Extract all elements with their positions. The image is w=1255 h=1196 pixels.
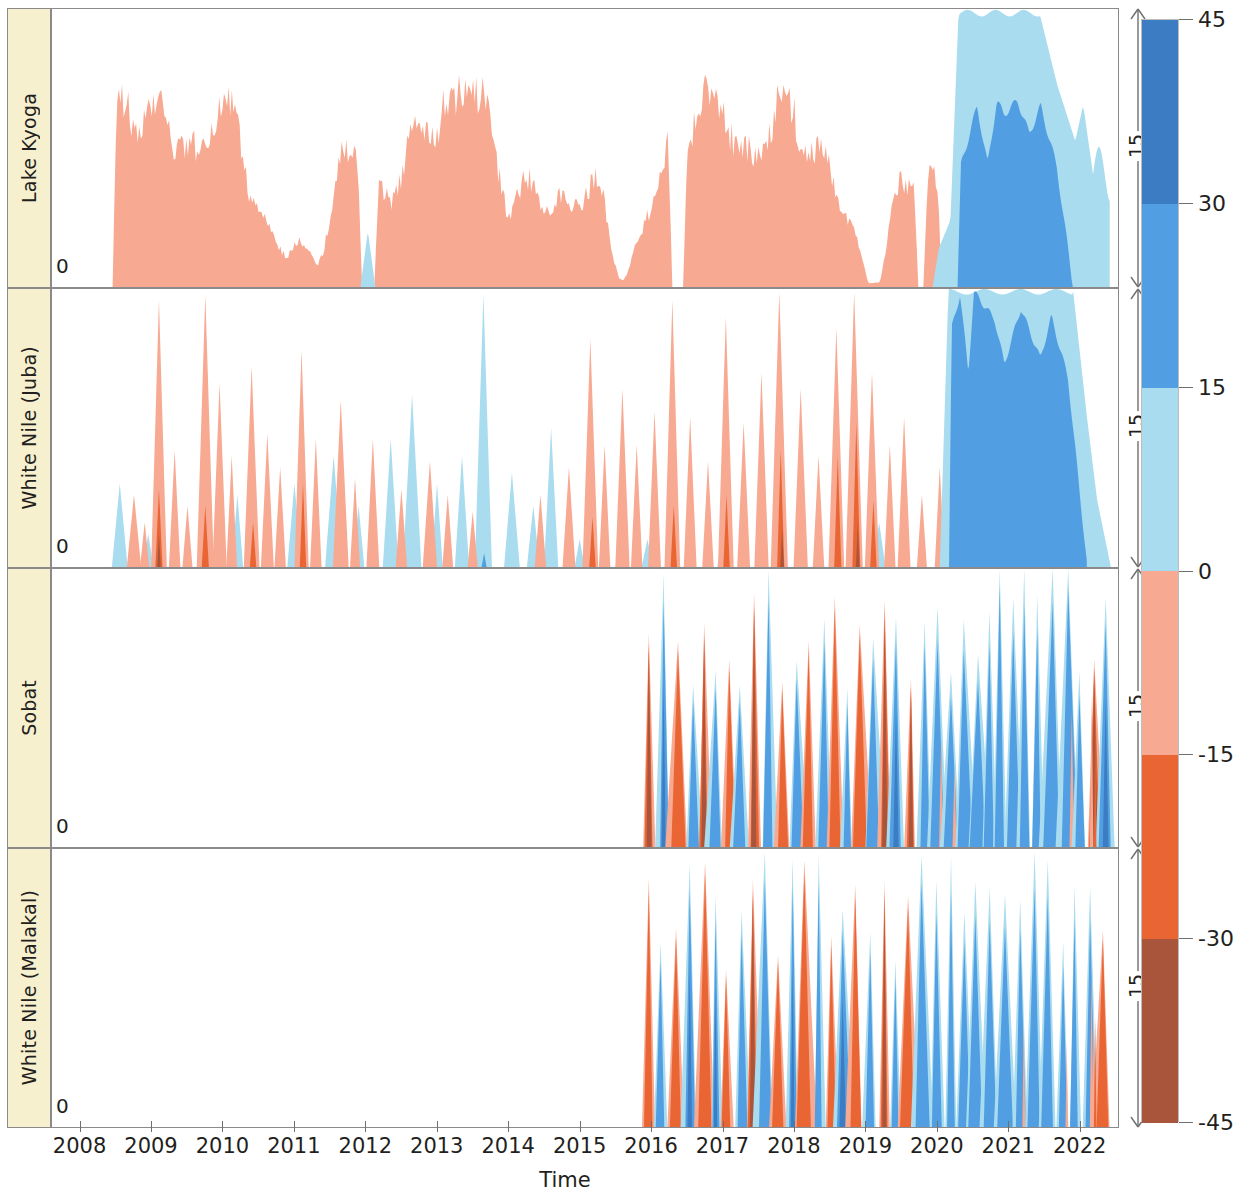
panel-series-white-nile-juba: [52, 289, 1118, 567]
panel-zero-label-white-nile-malakal: 0: [56, 1094, 69, 1118]
x-tick-label: 2013: [410, 1134, 463, 1158]
area-band: [310, 439, 321, 567]
area-band: [403, 395, 422, 567]
x-tick-label: 2017: [696, 1134, 749, 1158]
x-tick-label: 2012: [339, 1134, 392, 1158]
x-tick: [222, 1121, 223, 1132]
x-tick-label: 2020: [910, 1134, 963, 1158]
colorbar: [1141, 19, 1179, 1122]
colorbar-tick: [1179, 938, 1193, 939]
colorbar-tick-label: -30: [1198, 926, 1234, 951]
panel-series-sobat: [52, 569, 1118, 847]
panel-plot-white-nile-malakal: [51, 848, 1119, 1128]
area-band: [374, 74, 672, 287]
x-tick-label: 2014: [481, 1134, 534, 1158]
area-band: [113, 84, 362, 287]
area-band: [475, 295, 492, 567]
x-tick: [1080, 1121, 1081, 1132]
area-band: [442, 495, 453, 567]
area-band: [813, 456, 824, 567]
x-tick-label: 2021: [982, 1134, 1035, 1158]
colorbar-tick-label: -45: [1198, 1110, 1234, 1135]
colorbar-tick: [1179, 754, 1193, 755]
panel-plot-white-nile-juba: [51, 288, 1119, 568]
x-tick-label: 2019: [839, 1134, 892, 1158]
area-band: [366, 439, 379, 567]
x-tick: [723, 1121, 724, 1132]
area-band: [169, 450, 180, 567]
x-tick-label: 2016: [624, 1134, 677, 1158]
area-band: [898, 417, 911, 567]
panel-label-text: White Nile (Malakal): [18, 890, 40, 1085]
x-tick: [151, 1121, 152, 1132]
area-band: [917, 495, 927, 567]
colorbar-tick-label: 45: [1198, 7, 1226, 32]
area-band: [648, 411, 661, 567]
panel-zero-label-white-nile-juba: 0: [56, 534, 69, 558]
colorbar-tick-label: -15: [1198, 742, 1234, 767]
x-tick: [80, 1121, 81, 1132]
x-tick: [365, 1121, 366, 1132]
x-tick-label: 2008: [53, 1134, 106, 1158]
area-band: [182, 506, 192, 567]
colorbar-ticks: 4530150-15-30-45: [1179, 19, 1255, 1122]
area-band: [112, 484, 128, 567]
panel-label-text: Lake Kyoga: [18, 93, 40, 203]
colorbar-tick: [1179, 571, 1193, 572]
x-tick-label: 2011: [267, 1134, 320, 1158]
x-tick: [937, 1121, 938, 1132]
colorbar-band-1: [1142, 204, 1178, 388]
area-band: [361, 234, 376, 287]
x-tick: [794, 1121, 795, 1132]
panel-label-white-nile-malakal: White Nile (Malakal): [7, 848, 51, 1128]
area-band: [665, 300, 681, 567]
figure-root: Lake Kyoga015White Nile (Juba)015Sobat01…: [0, 0, 1255, 1196]
panel-label-lake-kyoga: Lake Kyoga: [7, 8, 51, 288]
colorbar-band-4: [1142, 755, 1178, 939]
panel-label-text: White Nile (Juba): [18, 346, 40, 509]
x-tick: [294, 1121, 295, 1132]
area-band: [563, 467, 576, 567]
x-tick-label: 2018: [767, 1134, 820, 1158]
x-axis-title: Time: [0, 1168, 1130, 1192]
area-band: [212, 384, 226, 567]
x-tick: [865, 1121, 866, 1132]
x-tick-label: 2009: [124, 1134, 177, 1158]
area-band: [583, 339, 599, 567]
panel-series-white-nile-malakal: [52, 849, 1118, 1127]
area-band: [544, 428, 558, 567]
area-band: [884, 445, 895, 567]
area-band: [226, 456, 237, 567]
area-band: [702, 461, 713, 567]
area-band: [261, 434, 274, 567]
area-band: [599, 445, 610, 567]
x-tick-label: 2015: [553, 1134, 606, 1158]
panel-zero-label-lake-kyoga: 0: [56, 254, 69, 278]
colorbar-tick-label: 30: [1198, 190, 1226, 215]
x-tick: [1008, 1121, 1009, 1132]
x-tick: [580, 1121, 581, 1132]
area-band: [615, 389, 629, 567]
colorbar-tick: [1179, 387, 1193, 388]
area-band: [455, 456, 469, 567]
colorbar-band-0: [1142, 20, 1178, 204]
area-band: [631, 445, 642, 567]
area-band: [244, 367, 260, 567]
panel-label-text: Sobat: [18, 680, 40, 736]
area-band: [535, 495, 546, 567]
x-tick-labels: 2008200920102011201220132014201520162017…: [51, 1134, 1119, 1164]
x-tick: [651, 1121, 652, 1132]
panel-label-sobat: Sobat: [7, 568, 51, 848]
x-tick-label: 2010: [196, 1134, 249, 1158]
colorbar-band-3: [1142, 571, 1178, 755]
colorbar-tick-label: 0: [1198, 558, 1212, 583]
area-band: [754, 372, 768, 567]
area-band: [504, 472, 520, 567]
panel-plot-lake-kyoga: [51, 8, 1119, 288]
panel-zero-label-sobat: 0: [56, 814, 69, 838]
area-band: [684, 417, 697, 567]
colorbar-tick: [1179, 19, 1193, 20]
colorbar-band-5: [1142, 939, 1178, 1123]
area-band: [383, 439, 399, 567]
area-band: [127, 495, 141, 567]
